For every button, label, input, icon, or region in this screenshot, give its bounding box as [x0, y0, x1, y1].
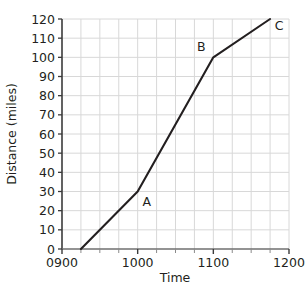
y-axis-tick-label: 110 — [31, 31, 55, 46]
x-axis-tick-label: 0900 — [46, 255, 78, 270]
y-axis-tick-label: 10 — [39, 222, 55, 237]
y-axis-tick-label: 80 — [39, 88, 55, 103]
point-label-c: C — [275, 18, 284, 33]
point-label-a: A — [142, 194, 151, 209]
distance-time-chart: 0102030405060708090100110120 09001000110… — [0, 0, 305, 291]
y-axis-tick-label: 50 — [39, 146, 55, 161]
x-axis-tick-label: 1100 — [197, 255, 229, 270]
y-axis-tick-label: 20 — [39, 203, 55, 218]
y-axis-tick-label: 70 — [39, 107, 55, 122]
y-axis-tick-label: 90 — [39, 69, 55, 84]
y-axis-tick-label: 30 — [39, 184, 55, 199]
chart-canvas: 0102030405060708090100110120 09001000110… — [0, 0, 305, 291]
y-axis-tick-label: 100 — [31, 50, 55, 65]
point-label-b: B — [197, 39, 206, 54]
y-axis-tick-label: 120 — [31, 12, 55, 27]
x-axis-tick-label: 1200 — [273, 255, 305, 270]
y-axis-title: Distance (miles) — [4, 83, 19, 185]
x-axis-title: Time — [159, 270, 191, 285]
y-axis-tick-label: 60 — [39, 127, 55, 142]
x-axis-tick-label: 1000 — [122, 255, 154, 270]
y-axis-tick-label: 40 — [39, 165, 55, 180]
